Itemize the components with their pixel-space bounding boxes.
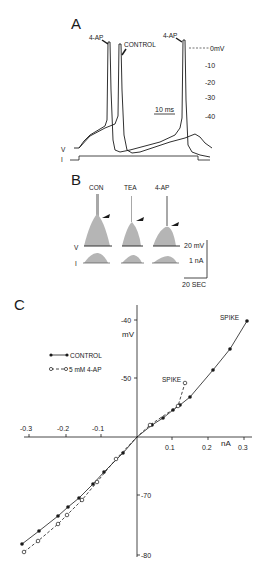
condition-4ap: 4-AP: [155, 184, 169, 191]
trace-label-i: I: [61, 156, 63, 163]
label-control: CONTROL: [124, 41, 156, 48]
ytick-10: -10: [205, 62, 215, 69]
xtick-0.2: 0.2: [202, 444, 212, 451]
scale-current: 1 nA: [189, 257, 204, 264]
ytick-0mv: 0mV: [210, 45, 225, 52]
ytick-minus-40: -40: [121, 317, 131, 324]
label-4ap-left: 4-AP: [89, 34, 103, 41]
arrowhead-icon: [102, 214, 110, 218]
legend-control: CONTROL: [70, 352, 102, 359]
scale-time: 20 SEC: [182, 281, 206, 288]
arrowhead-icon: [171, 222, 179, 226]
y-axis-unit: mV: [122, 330, 135, 339]
time-scale-label: 10 ms: [155, 106, 175, 113]
x-axis-unit: nA: [221, 439, 231, 448]
panel-a-letter: A: [71, 15, 81, 32]
panel-a: A 4-AP CONTROL 4-AP 0mV -10 -20 -30 -40 …: [61, 15, 225, 163]
control-line: [22, 321, 247, 544]
trace-con: [83, 194, 112, 263]
figure: A 4-AP CONTROL 4-AP 0mV -10 -20 -30 -40 …: [0, 0, 264, 577]
legend-4ap: 5 mM 4-AP: [69, 366, 102, 373]
arrowhead-icon: [136, 217, 144, 221]
spike-label-ap: SPIKE: [162, 376, 182, 383]
ytick-minus-70: -70: [141, 492, 151, 499]
xtick-0.1: 0.1: [165, 444, 175, 451]
panel-c-letter: C: [14, 296, 25, 313]
filled-circle-icon: [65, 353, 68, 356]
condition-tea: TEA: [124, 184, 137, 191]
trace-label-v: V: [61, 146, 66, 153]
ytick-minus-50: -50: [121, 375, 131, 382]
legend: CONTROL 5 mM 4-AP: [49, 352, 102, 373]
xtick-neg-0.1: -0.1: [92, 425, 104, 432]
voltage-traces: [74, 40, 212, 157]
xtick-neg-0.2: -0.2: [57, 425, 69, 432]
ytick-30: -30: [205, 94, 215, 101]
panel-b-letter: B: [71, 171, 81, 188]
ytick-40: -40: [205, 113, 215, 120]
trace-4ap: [152, 196, 180, 263]
xtick-neg-0.3: -0.3: [20, 425, 32, 432]
ytick-20: -20: [205, 79, 215, 86]
open-circle-icon: [49, 367, 52, 370]
panel-c: C -0.3 -0.2 -0.1 0.1 0.2 0.3 nA -40 -50 …: [14, 296, 252, 559]
ytick-minus-80: -80: [141, 552, 151, 559]
current-step-trace: [70, 156, 210, 160]
arrow-icon: [122, 49, 126, 55]
trace-label-i: I: [75, 260, 77, 267]
scale-voltage: 20 mV: [184, 242, 205, 249]
xtick-0.3: 0.3: [238, 444, 248, 451]
condition-con: CON: [89, 184, 104, 191]
arrow-icon: [176, 38, 182, 42]
control-points: [20, 319, 249, 546]
arrow-icon: [102, 40, 108, 44]
open-circle-icon: [64, 367, 67, 370]
filled-circle-icon: [49, 353, 52, 356]
label-4ap-right: 4-AP: [163, 32, 177, 39]
panel-b: B CON TEA 4-AP: [71, 171, 207, 288]
ap-points: [22, 381, 187, 554]
spike-label-control: SPIKE: [220, 314, 240, 321]
trace-tea: [121, 196, 144, 263]
ap-line: [24, 383, 185, 552]
trace-label-v: V: [74, 244, 79, 251]
